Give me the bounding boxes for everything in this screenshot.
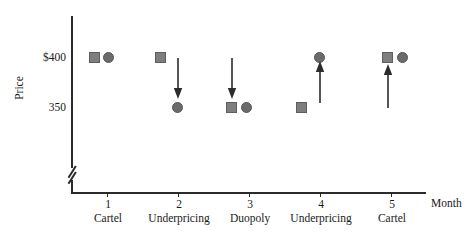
data-point-circle-month-1 bbox=[103, 52, 114, 63]
down-arrow-month-2 bbox=[172, 58, 184, 100]
data-point-circle-month-2 bbox=[172, 102, 183, 113]
x-tick-name-5: Cartel bbox=[344, 211, 440, 226]
y-axis-break-icon bbox=[64, 166, 80, 184]
x-axis-title: Month bbox=[431, 197, 462, 209]
data-point-square-month-5 bbox=[382, 52, 393, 63]
data-point-square-month-2 bbox=[155, 52, 166, 63]
data-point-circle-month-3 bbox=[241, 102, 252, 113]
price-month-chart: $400 350 Price 1 Cartel 2 Underpricing 3… bbox=[0, 0, 475, 234]
x-tick-number-5: 5 bbox=[344, 197, 440, 211]
up-arrow-month-5 bbox=[382, 64, 394, 108]
y-axis-title: Price bbox=[13, 60, 25, 116]
down-arrow-month-3 bbox=[226, 58, 238, 100]
y-tick-label-400: $400 bbox=[28, 51, 66, 63]
data-point-square-month-1 bbox=[89, 52, 100, 63]
y-axis-line bbox=[71, 16, 73, 168]
up-arrow-month-4 bbox=[314, 61, 326, 103]
x-tick-group-5: 5 Cartel bbox=[344, 197, 440, 226]
data-point-square-month-4 bbox=[296, 102, 307, 113]
y-tick-label-350: 350 bbox=[28, 101, 66, 113]
data-point-square-month-3 bbox=[226, 102, 237, 113]
data-point-circle-month-5 bbox=[397, 52, 408, 63]
